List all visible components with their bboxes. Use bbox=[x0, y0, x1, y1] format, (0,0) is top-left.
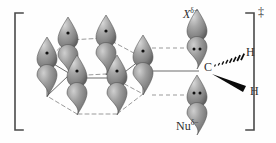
ring-orbital-p4 bbox=[133, 35, 153, 95]
bracket-right bbox=[246, 13, 254, 130]
hydrogen-hashed-label: H bbox=[246, 46, 255, 58]
nucleophile-label: Nuδ− bbox=[176, 119, 199, 132]
leaving-group-charge: δ− bbox=[190, 6, 198, 15]
leaving-group-label: Xδ− bbox=[183, 7, 198, 20]
structure-canvas bbox=[0, 0, 276, 143]
nucleophile-charge: δ− bbox=[191, 118, 199, 127]
carbon-label: C bbox=[204, 61, 212, 73]
ring-orbital-p1 bbox=[37, 37, 57, 97]
solid-wedge-bond bbox=[212, 74, 246, 92]
hashed-wedge-bond bbox=[215, 54, 245, 67]
ring-vertical-connectors bbox=[47, 58, 143, 96]
double-dagger-transition-state-icon: ‡ bbox=[258, 6, 264, 18]
hydrogen-wedge-label: H bbox=[250, 85, 259, 97]
nucleophile-symbol: Nu bbox=[176, 119, 191, 133]
ring-bonds-lower bbox=[47, 74, 143, 114]
bracket-left bbox=[15, 13, 23, 130]
transition-state-figure: Xδ− Nuδ− C H H ‡ bbox=[0, 0, 276, 143]
